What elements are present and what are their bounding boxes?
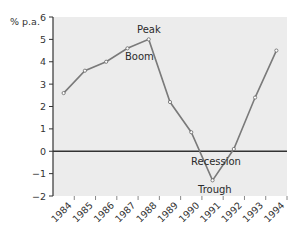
annotation-trough: Trough bbox=[197, 184, 232, 195]
y-tick-label: 1 bbox=[40, 123, 46, 134]
annotation-recession: Recession bbox=[191, 156, 241, 167]
data-point bbox=[232, 147, 235, 150]
x-tick-label: 1992 bbox=[219, 200, 244, 225]
x-tick-label: 1994 bbox=[262, 200, 287, 225]
y-tick-label: 4 bbox=[40, 56, 46, 67]
annotation-boom: Boom bbox=[125, 51, 154, 62]
x-tick-label: 1986 bbox=[91, 200, 116, 225]
data-point bbox=[211, 179, 214, 182]
y-tick-label: 3 bbox=[40, 79, 46, 90]
data-point bbox=[83, 69, 86, 72]
y-tick-label: 5 bbox=[40, 34, 46, 45]
data-point bbox=[253, 96, 256, 99]
y-tick-label: −2 bbox=[32, 191, 46, 202]
x-tick-label: 1993 bbox=[240, 200, 265, 225]
x-tick-label: 1991 bbox=[198, 200, 223, 225]
x-axis: 1984198519861987198819891990199119921993… bbox=[49, 196, 287, 225]
x-tick-label: 1987 bbox=[113, 200, 138, 225]
y-tick-label: −1 bbox=[32, 168, 46, 179]
data-point bbox=[126, 47, 129, 50]
y-axis: −2−10123456 bbox=[32, 12, 53, 202]
x-tick-label: 1990 bbox=[176, 200, 201, 225]
data-point bbox=[105, 60, 108, 63]
data-point bbox=[275, 49, 278, 52]
x-tick-label: 1988 bbox=[134, 200, 159, 225]
data-point bbox=[168, 100, 171, 103]
x-tick-label: 1985 bbox=[70, 200, 95, 225]
x-tick-label: 1984 bbox=[49, 200, 74, 225]
y-tick-label: 2 bbox=[40, 101, 46, 112]
data-point bbox=[147, 38, 150, 41]
y-tick-label: 0 bbox=[40, 146, 46, 157]
data-point bbox=[62, 91, 65, 94]
x-tick-label: 1989 bbox=[155, 200, 180, 225]
y-axis-label: % p.a. bbox=[10, 16, 40, 27]
y-tick-label: 6 bbox=[40, 12, 46, 23]
annotation-peak: Peak bbox=[137, 24, 161, 35]
line-chart: −2−10123456 1984198519861987198819891990… bbox=[0, 0, 304, 236]
data-point bbox=[190, 131, 193, 134]
